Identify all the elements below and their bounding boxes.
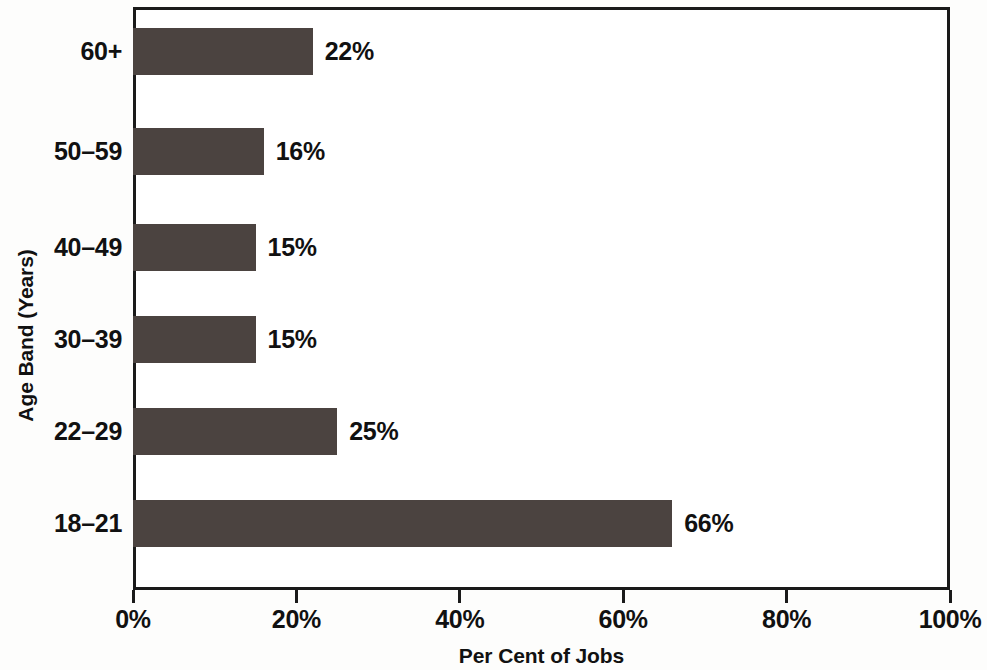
bar [133,224,256,271]
x-axis-tick-mark [785,590,788,603]
bars-layer: 22%16%15%15%25%66% [133,7,950,590]
bar-value-label: 15% [268,327,317,352]
bar [133,316,256,363]
x-axis-title: Per Cent of Jobs [133,645,950,666]
bar-value-label: 66% [684,511,733,536]
y-axis-tick-label: 60+ [0,39,122,64]
bar [133,128,264,175]
bar [133,408,337,455]
x-axis-tick-label: 80% [762,607,811,632]
bar-value-label: 15% [268,235,317,260]
y-axis-tick-label: 50–59 [0,139,122,164]
bar [133,28,313,75]
x-axis-tick-mark [295,590,298,603]
x-axis-tick-mark [132,590,135,603]
x-axis-tick-label: 20% [272,607,321,632]
x-axis-tick-mark [949,590,952,603]
bar-value-label: 25% [349,419,398,444]
bar-value-label: 22% [325,39,374,64]
y-axis-title: Age Band (Years) [15,206,36,466]
x-axis-tick-label: 40% [435,607,484,632]
x-axis-tick-mark [458,590,461,603]
x-axis-tick-mark [622,590,625,603]
bar-chart: 60+50–5940–4930–3922–2918–21 22%16%15%15… [0,0,987,670]
x-axis-tick-label: 0% [115,607,151,632]
bar-value-label: 16% [276,139,325,164]
x-axis-tick-label: 100% [919,607,982,632]
x-axis-tick-label: 60% [599,607,648,632]
y-axis-tick-label: 18–21 [0,511,122,536]
bar [133,500,672,547]
